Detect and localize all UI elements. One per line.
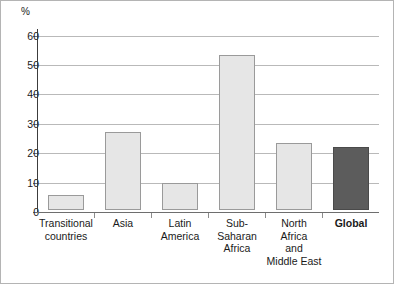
- gridline-50: [38, 65, 379, 66]
- category-label-global: Global: [321, 217, 381, 230]
- gridline-10: [38, 183, 379, 184]
- bar-latin-america: [162, 183, 198, 210]
- gridline-20: [38, 153, 379, 154]
- y-axis-unit-label: %: [21, 7, 30, 17]
- ytick-label-20: 20: [9, 148, 39, 158]
- bar-north-africa-middle-east: [276, 143, 312, 210]
- ytick-label-10: 10: [9, 178, 39, 188]
- gridline-60: [38, 36, 379, 37]
- category-label-latin-america: Latin America: [150, 217, 210, 242]
- ytick-label-30: 30: [9, 119, 39, 129]
- bar-asia: [105, 132, 141, 210]
- ytick-label-60: 60: [9, 31, 39, 41]
- ytick-label-40: 40: [9, 89, 39, 99]
- bar-sub-saharan-africa: [219, 55, 255, 210]
- ytick-label-0: 0: [9, 207, 39, 217]
- bar-chart-figure: % 60 50 40 30 20 10 0 Transitional count…: [0, 0, 394, 284]
- category-label-asia: Asia: [93, 217, 153, 230]
- ytick-label-50: 50: [9, 60, 39, 70]
- bar-global: [333, 147, 369, 210]
- gridline-40: [38, 94, 379, 95]
- y-axis-line: [37, 29, 38, 213]
- gridline-30: [38, 124, 379, 125]
- bar-transitional-countries: [48, 195, 84, 210]
